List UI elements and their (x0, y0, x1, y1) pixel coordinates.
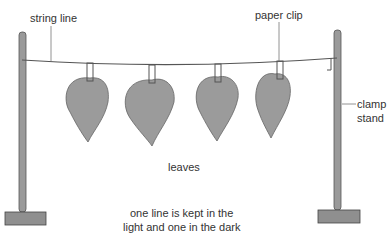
caption-line-2: light and one in the dark (123, 221, 240, 234)
caption-line-1: one line is kept in the (130, 207, 233, 220)
paper-clip-label: paper clip (255, 9, 303, 22)
leaves (66, 74, 290, 146)
leaves-label: leaves (168, 161, 200, 174)
stand-label: stand (357, 112, 384, 125)
string-line (22, 58, 337, 65)
clamp-label: clamp (357, 98, 386, 111)
diagram (0, 0, 391, 237)
string-line-label: string line (30, 12, 77, 25)
